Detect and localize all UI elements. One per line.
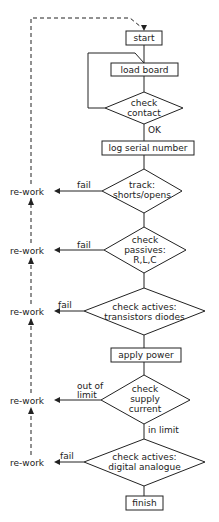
supply-label-2: supply [104, 394, 186, 404]
rework-label-3: re-work [10, 307, 44, 317]
track-label-2: shorts/opens [100, 190, 184, 200]
fail-label-1: fail [77, 180, 91, 190]
ok-label: OK [148, 125, 161, 135]
check-contact-label-2: contact [114, 108, 174, 118]
check-contact-label-1: check [114, 98, 174, 108]
in-limit-label: in limit [148, 425, 179, 435]
rework-label-1: re-work [10, 187, 44, 197]
load-board-label: load board [111, 65, 178, 75]
fail-label-4: fail [60, 451, 74, 461]
passives-label-2: passives: [104, 245, 186, 255]
digital-label-1: check actives: [84, 452, 205, 462]
start-label: start [126, 33, 162, 43]
rework-label-2: re-work [10, 246, 44, 256]
actives-label-1: check actives: [84, 302, 205, 312]
rework-label-4: re-work [10, 396, 44, 406]
supply-label-1: check [104, 384, 186, 394]
supply-label-3: current [104, 404, 186, 414]
fail-label-3: fail [58, 300, 72, 310]
log-serial-label: log serial number [102, 143, 194, 153]
finish-label: finish [126, 498, 163, 508]
out-of-limit-label-2: limit [77, 390, 97, 400]
apply-power-label: apply power [111, 350, 181, 360]
actives-label-2: transistors diodes [84, 312, 205, 322]
track-label-1: track: [100, 180, 184, 190]
passives-label-1: check [104, 235, 186, 245]
passives-label-3: R,L,C [104, 255, 186, 265]
rework-label-5: re-work [10, 458, 44, 468]
digital-label-2: digital analogue [84, 462, 205, 472]
fail-label-2: fail [77, 240, 91, 250]
